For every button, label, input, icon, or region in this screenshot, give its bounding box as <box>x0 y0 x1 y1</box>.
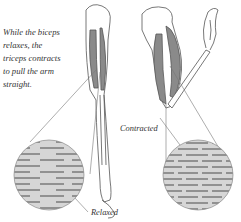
relaxed-fibers <box>10 135 90 215</box>
straight-arm <box>86 5 114 218</box>
muscle-diagram: While the biceps relaxes, the triceps co… <box>0 0 241 222</box>
contracted-fibers <box>160 135 240 215</box>
contracted-label: Contracted <box>120 124 158 133</box>
relaxed-label: Relaxed <box>91 208 118 217</box>
bent-arm <box>142 7 218 108</box>
caption-text: While the biceps relaxes, the triceps co… <box>3 26 63 91</box>
